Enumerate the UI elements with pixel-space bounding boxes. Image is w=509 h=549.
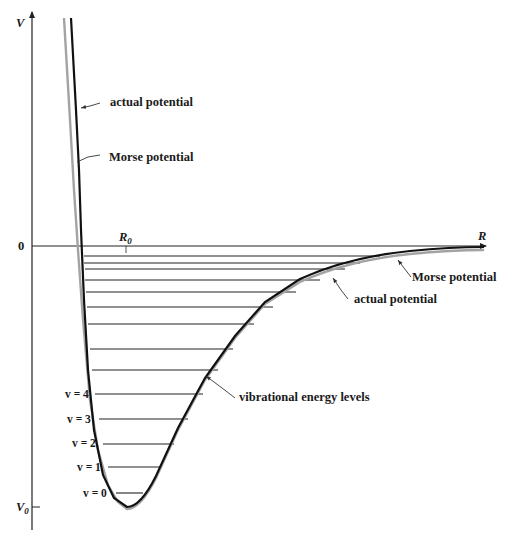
annotation-vibrational-energy-levels: vibrational energy levels <box>239 390 370 404</box>
actual-left-leader <box>81 103 100 108</box>
energy-levels <box>84 256 380 493</box>
level-label-v4: v = 4 <box>65 388 89 400</box>
morse-left-leader <box>77 155 100 162</box>
annotation-morse-potential-right: Morse potential <box>412 270 497 284</box>
zero-label: 0 <box>18 239 24 253</box>
v0-label: V0 <box>16 500 29 516</box>
actual-right-leader <box>333 278 348 299</box>
level-label-v3: v = 3 <box>67 413 91 425</box>
annotation-actual-potential-right: actual potential <box>354 292 438 306</box>
morse-right-leader <box>398 260 411 277</box>
v-axis-label: V <box>16 16 26 30</box>
annotation-morse-potential-left: Morse potential <box>109 150 194 164</box>
level-label-v0: v = 0 <box>83 487 107 499</box>
vib-levels-leader <box>206 376 235 398</box>
level-label-v2: v = 2 <box>72 437 96 449</box>
annotation-actual-potential-left: actual potential <box>110 95 194 109</box>
level-label-v1: v = 1 <box>77 461 101 473</box>
r-axis-label: R <box>477 229 486 243</box>
potential-energy-diagram: V R 0 V0 R0 actual potential Morse poten… <box>0 0 509 549</box>
r0-label: R0 <box>118 230 132 246</box>
